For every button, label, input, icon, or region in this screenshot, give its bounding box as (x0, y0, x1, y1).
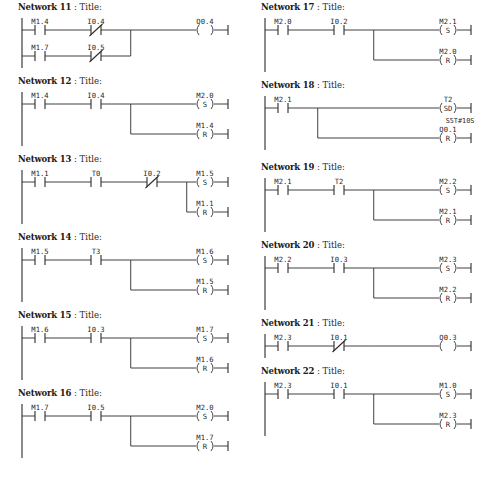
coil-right-paren (454, 25, 456, 35)
network-label: Network 11 (18, 2, 71, 12)
network-separator: : (71, 76, 79, 86)
coil-right-paren (211, 207, 213, 217)
ladder-rung: M2.3I0.1Q0.3 (243, 330, 486, 364)
coil-right-paren (454, 215, 456, 225)
contact-label: M2.3 (274, 381, 291, 390)
coil-right-paren (454, 55, 456, 65)
network-separator: : (71, 310, 79, 320)
contact-label: I0.5 (87, 403, 104, 412)
ladder-network: Network 12 : Title:M1.4I0.4M2.0SM1.4R (0, 74, 243, 152)
ladder-network: Network 14 : Title:M1.5T3M1.6SM1.5R (0, 230, 243, 308)
network-header: Network 16 : Title: (0, 386, 243, 400)
contact-label: M1.7 (31, 403, 48, 412)
network-title: Title: (80, 154, 102, 164)
ladder-network: Network 22 : Title:M2.3I0.1M1.0SM2.3R (243, 364, 486, 442)
network-header: Network 22 : Title: (243, 364, 486, 378)
network-title: Title: (323, 366, 345, 376)
ladder-rung: M2.1T2SDS5T#10SQ0.1R (243, 92, 486, 160)
coil-right-paren (454, 419, 456, 429)
coil-symbol: R (203, 130, 208, 139)
ladder-network: Network 13 : Title:M1.1T0I0.2M1.5SM1.1R (0, 152, 243, 230)
network-label: Network 19 (261, 162, 314, 172)
ladder-network: Network 17 : Title:M2.0I0.2M2.1SM2.0R (243, 0, 486, 78)
network-title: Title: (80, 310, 102, 320)
coil-left-paren (197, 441, 199, 451)
ladder-diagram-sheet: Network 11 : Title:M1.4I0.4M1.7I0.5Q0.4N… (0, 0, 486, 499)
contact-label: I0.1 (330, 381, 347, 390)
coil-left-paren (440, 215, 442, 225)
network-title: Title: (323, 80, 345, 90)
coil-symbol: R (446, 134, 451, 143)
network-label: Network 13 (18, 154, 71, 164)
coil-symbol: R (446, 420, 451, 429)
contact-label: M1.5 (31, 247, 48, 256)
network-separator: : (71, 232, 79, 242)
network-label: Network 14 (18, 232, 71, 242)
coil-left-paren (440, 185, 442, 195)
network-title: Title: (80, 388, 102, 398)
ladder-rung: M2.3I0.1M1.0SM2.3R (243, 378, 486, 442)
coil-left-paren (440, 419, 442, 429)
network-separator: : (71, 388, 79, 398)
ladder-rung: M2.1T2M2.2SM2.1R (243, 174, 486, 238)
ladder-rung: M1.4I0.4M1.7I0.5Q0.4 (0, 14, 243, 74)
ladder-network: Network 19 : Title:M2.1T2M2.2SM2.1R (243, 160, 486, 238)
coil-symbol: S (446, 26, 450, 35)
network-header: Network 11 : Title: (0, 0, 243, 14)
network-separator: : (314, 366, 322, 376)
coil-symbol: S (446, 264, 450, 273)
ladder-network: Network 21 : Title:M2.3I0.1Q0.3 (243, 316, 486, 364)
coil-left-paren (440, 341, 442, 351)
coil-symbol: SD (444, 104, 453, 113)
coil-left-paren (440, 133, 442, 143)
coil-right-paren (454, 341, 456, 351)
contact-label: I0.2 (330, 17, 347, 26)
contact-label: T2 (335, 177, 344, 186)
network-header: Network 18 : Title: (243, 78, 486, 92)
coil-symbol: S (446, 390, 450, 399)
ladder-column-right: Network 17 : Title:M2.0I0.2M2.1SM2.0RNet… (243, 0, 486, 499)
contact-label: M1.4 (31, 91, 48, 100)
coil-right-paren (211, 25, 213, 35)
network-separator: : (314, 240, 322, 250)
coil-left-paren (440, 389, 442, 399)
coil-left-paren (197, 99, 199, 109)
coil-left-paren (197, 411, 199, 421)
network-label: Network 21 (261, 318, 314, 328)
coil-left-paren (440, 263, 442, 273)
coil-symbol: R (203, 364, 208, 373)
coil-left-paren (197, 207, 199, 217)
coil-symbol: S (203, 412, 207, 421)
coil-left-paren (197, 177, 199, 187)
coil-symbol: S (203, 100, 207, 109)
coil-right-paren (211, 363, 213, 373)
coil-left-paren (197, 333, 199, 343)
network-separator: : (314, 80, 322, 90)
network-title: Title: (80, 232, 102, 242)
coil-symbol: R (446, 294, 451, 303)
coil-symbol: S (446, 186, 450, 195)
coil-left-paren (197, 129, 199, 139)
contact-label: M1.7 (31, 43, 48, 52)
ladder-rung: M2.0I0.2M2.1SM2.0R (243, 14, 486, 78)
output-label: Q0.4 (196, 17, 213, 26)
network-label: Network 22 (261, 366, 314, 376)
network-label: Network 20 (261, 240, 314, 250)
coil-left-paren (197, 285, 199, 295)
network-title: Title: (80, 76, 102, 86)
network-header: Network 17 : Title: (243, 0, 486, 14)
ladder-rung: M1.7I0.5M2.0SM1.7R (0, 400, 243, 464)
coil-symbol: S (203, 256, 207, 265)
coil-symbol: R (203, 286, 208, 295)
coil-symbol: R (446, 56, 451, 65)
ladder-rung: M1.1T0I0.2M1.5SM1.1R (0, 166, 243, 230)
network-header: Network 20 : Title: (243, 238, 486, 252)
contact-label: M2.3 (274, 333, 291, 342)
ladder-network: Network 16 : Title:M1.7I0.5M2.0SM1.7R (0, 386, 243, 464)
contact-label: M2.0 (274, 17, 291, 26)
coil-symbol: R (203, 208, 208, 217)
network-header: Network 12 : Title: (0, 74, 243, 88)
coil-right-paren (211, 411, 213, 421)
network-title: Title: (80, 2, 102, 12)
coil-symbol: R (203, 442, 208, 451)
